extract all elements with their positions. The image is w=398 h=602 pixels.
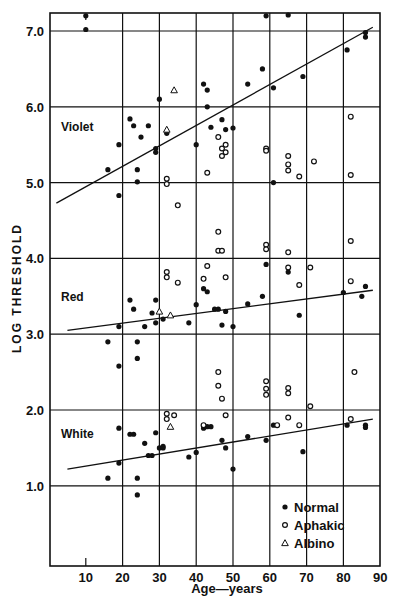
normal-point-marker [363, 284, 368, 289]
regression-line-white [67, 419, 372, 469]
albino-point-marker [163, 126, 170, 132]
regression-lines [56, 27, 372, 469]
normal-point-marker [271, 85, 276, 90]
aphakic-point-marker [175, 280, 180, 285]
grid [50, 13, 380, 566]
aphakic-point-marker [286, 391, 291, 396]
aphakic-point-marker [220, 248, 225, 253]
legend-label-normal: Normal [294, 500, 339, 515]
plot-frame [50, 13, 380, 566]
aphakic-point-marker [164, 270, 169, 275]
normal-point-marker [127, 116, 132, 121]
aphakic-point-marker [175, 203, 180, 208]
normal-point-marker [219, 117, 224, 122]
x-tick-label: 20 [115, 570, 129, 585]
aphakic-point-marker [201, 276, 206, 281]
group-labels: VioletRedWhite [61, 120, 94, 441]
normal-point-marker [297, 313, 302, 318]
normal-point-marker [116, 426, 121, 431]
regression-line-violet [56, 27, 372, 203]
normal-point-marker [153, 146, 158, 151]
aphakic-point-marker [223, 413, 228, 418]
group-label-violet: Violet [61, 120, 93, 134]
aphakic-point-marker [275, 423, 280, 428]
normal-point-marker [116, 324, 121, 329]
aphakic-point-marker [223, 150, 228, 155]
normal-point-marker [146, 123, 151, 128]
aphakic-point-marker [223, 275, 228, 280]
plot-border [50, 13, 380, 566]
normal-point-marker [105, 476, 110, 481]
albino-point-marker [167, 312, 174, 318]
normal-point-marker [116, 193, 121, 198]
legend-label-aphakic: Aphakic [294, 518, 345, 533]
normal-point-marker [105, 167, 110, 172]
normal-point-marker [264, 262, 269, 267]
normal-point-marker [160, 444, 165, 449]
normal-point-marker [216, 307, 221, 312]
aphakic-point-marker [286, 168, 291, 173]
normal-point-marker [245, 434, 250, 439]
normal-point-marker [223, 127, 228, 132]
normal-point-marker [135, 179, 140, 184]
normal-point-marker [344, 47, 349, 52]
normal-point-marker [282, 504, 287, 509]
normal-point-marker [208, 424, 213, 429]
aphakic-point-marker [205, 264, 210, 269]
normal-point-marker [359, 294, 364, 299]
normal-point-marker [186, 320, 191, 325]
aphakic-point-marker [297, 423, 302, 428]
normal-point-marker [186, 454, 191, 459]
normal-point-marker [286, 12, 291, 17]
y-axis-ticks: 1.02.03.04.05.06.07.0 [26, 24, 44, 494]
y-tick-label: 3.0 [26, 327, 44, 342]
normal-point-marker [83, 27, 88, 32]
normal-point-marker [344, 423, 349, 428]
aphakic-point-marker [201, 423, 206, 428]
normal-point-marker [363, 34, 368, 39]
legend-label-albino: Albino [294, 536, 334, 551]
normal-point-marker [245, 301, 250, 306]
normal-point-marker [131, 307, 136, 312]
x-tick-label: 80 [336, 570, 350, 585]
aphakic-point-marker [348, 239, 353, 244]
aphakic-point-marker [286, 415, 291, 420]
aphakic-point-marker [223, 142, 228, 147]
aphakic-point-marker [264, 379, 269, 384]
aphakic-point-marker [164, 275, 169, 280]
aphakic-point-marker [297, 283, 302, 288]
normal-point-marker [153, 430, 158, 435]
normal-point-marker [153, 297, 158, 302]
y-tick-label: 4.0 [26, 251, 44, 266]
aphakic-point-marker [216, 383, 221, 388]
normal-point-marker [300, 449, 305, 454]
normal-point-marker [230, 467, 235, 472]
normal-point-marker [271, 180, 276, 185]
aphakic-point-marker [286, 265, 291, 270]
aphakic-point-marker [264, 386, 269, 391]
x-tick-label: 30 [152, 570, 166, 585]
aphakic-point-marker [297, 174, 302, 179]
aphakic-point-marker [348, 114, 353, 119]
normal-point-marker [153, 320, 158, 325]
chart-canvas: 1.02.03.04.05.06.07.0 102030405060708090… [0, 0, 398, 602]
normal-point-marker [135, 339, 140, 344]
normal-point-marker [149, 453, 154, 458]
normal-point-marker [300, 74, 305, 79]
group-label-red: Red [61, 290, 84, 304]
aphakic-point-marker [172, 413, 177, 418]
aphakic-point-marker [205, 170, 210, 175]
normal-point-marker [201, 81, 206, 86]
aphakic-point-marker [286, 154, 291, 159]
albino-point-marker [156, 308, 163, 314]
normal-point-marker [127, 297, 132, 302]
aphakic-point-marker [286, 386, 291, 391]
aphakic-point-marker [216, 135, 221, 140]
y-tick-label: 2.0 [26, 403, 44, 418]
aphakic-point-marker [216, 229, 221, 234]
normal-point-marker [131, 432, 136, 437]
normal-point-marker [264, 13, 269, 18]
aphakic-point-marker [164, 176, 169, 181]
normal-point-marker [135, 476, 140, 481]
normal-point-marker [131, 123, 136, 128]
